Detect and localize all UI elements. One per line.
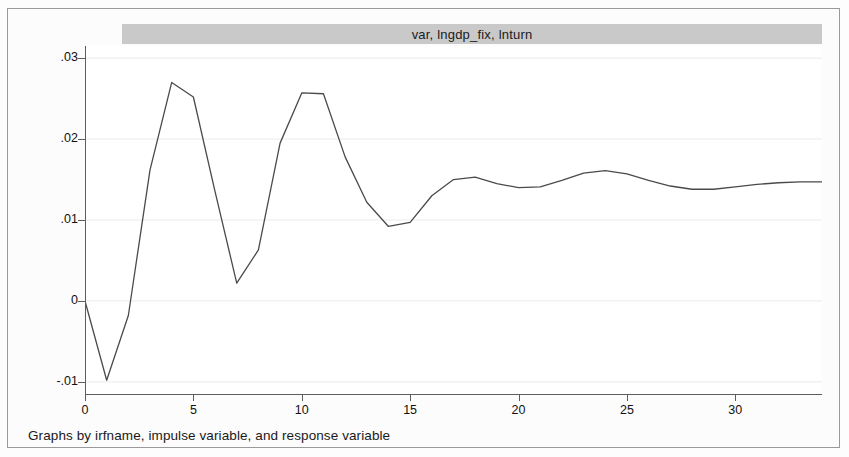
y-tick-mark bbox=[78, 382, 85, 383]
chart-title: var, lngdp_fix, lnturn bbox=[412, 27, 533, 42]
x-tick-mark bbox=[85, 394, 86, 401]
chart-title-banner: var, lngdp_fix, lnturn bbox=[122, 24, 822, 44]
x-tick-label: 5 bbox=[173, 403, 213, 417]
x-tick-label: 10 bbox=[282, 403, 322, 417]
y-tick-mark bbox=[78, 139, 85, 140]
x-tick-label: 20 bbox=[499, 403, 539, 417]
y-tick-mark bbox=[78, 220, 85, 221]
x-tick-label: 30 bbox=[715, 403, 755, 417]
y-tick-label: .03 bbox=[34, 50, 78, 64]
y-tick-label: .01 bbox=[34, 212, 78, 226]
x-tick-mark bbox=[627, 394, 628, 401]
y-tick-label: -.01 bbox=[34, 374, 78, 388]
y-tick-label: 0 bbox=[34, 293, 78, 307]
x-tick-mark bbox=[735, 394, 736, 401]
y-tick-mark bbox=[78, 301, 85, 302]
plot-area bbox=[85, 46, 822, 394]
x-tick-mark bbox=[193, 394, 194, 401]
x-tick-label: 15 bbox=[390, 403, 430, 417]
y-axis-line bbox=[85, 46, 86, 394]
y-tick-label: .02 bbox=[34, 131, 78, 145]
figure-container: var, lngdp_fix, lnturn .03.02.010-.01 05… bbox=[0, 0, 849, 457]
figure-caption: Graphs by irfname, impulse variable, and… bbox=[28, 428, 390, 443]
x-tick-mark bbox=[302, 394, 303, 401]
series-line-lnturn bbox=[85, 82, 822, 380]
x-axis-line bbox=[85, 394, 822, 395]
x-tick-label: 25 bbox=[607, 403, 647, 417]
x-tick-label: 0 bbox=[65, 403, 105, 417]
impulse-response-line-chart bbox=[85, 46, 822, 394]
x-tick-mark bbox=[519, 394, 520, 401]
x-tick-mark bbox=[410, 394, 411, 401]
y-tick-mark bbox=[78, 58, 85, 59]
